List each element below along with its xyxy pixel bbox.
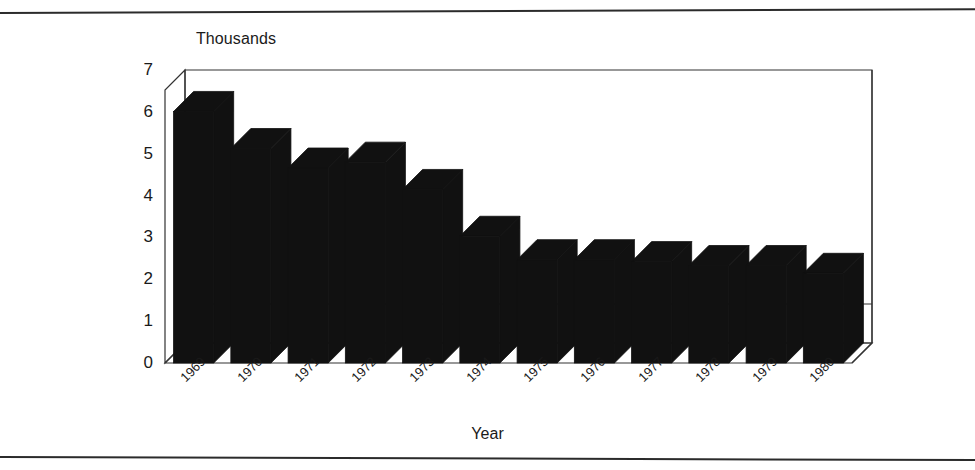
bar-column xyxy=(689,246,749,364)
bar-column xyxy=(746,246,806,364)
bar-column xyxy=(231,129,291,364)
x-axis-title: Year xyxy=(0,425,975,443)
bar-column xyxy=(517,240,577,363)
y-axis-title: Thousands xyxy=(196,30,276,48)
bar-column xyxy=(460,216,520,363)
y-axis-tick-label: 0 xyxy=(127,354,153,371)
y-axis-tick-label: 7 xyxy=(127,61,153,78)
bar-column xyxy=(803,253,863,363)
bar-column xyxy=(632,242,692,363)
bar-column xyxy=(174,91,234,363)
y-axis-tick-label: 1 xyxy=(127,312,153,329)
y-axis-tick-label: 6 xyxy=(127,103,153,120)
bar-column xyxy=(288,148,348,363)
bar-column xyxy=(345,142,405,363)
y-axis-tick-label: 2 xyxy=(127,270,153,287)
bar-column xyxy=(574,240,634,363)
chart-bars xyxy=(174,91,864,363)
y-axis-tick-label: 3 xyxy=(127,228,153,245)
y-axis-tick-label: 4 xyxy=(127,187,153,204)
figure-page: Thousands Year 01234567 1969197019711972… xyxy=(0,0,975,470)
y-axis-tick-label: 5 xyxy=(127,145,153,162)
bar-column xyxy=(403,169,463,363)
bar-chart: Thousands Year 01234567 1969197019711972… xyxy=(0,0,975,470)
